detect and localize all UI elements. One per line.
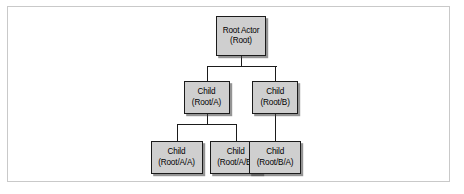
tree-diagram: Root Actor (Root) Child (Root/A) Child (… — [8, 7, 451, 183]
node-child-root-a-title: Child — [198, 87, 216, 97]
node-child-root-a-path: (Root/A) — [192, 98, 221, 108]
connector-to-child-b — [275, 66, 276, 81]
node-child-root-a-a-path: (Root/A/A) — [158, 158, 195, 168]
node-root-actor-title: Root Actor — [223, 26, 260, 36]
connector-level1-bus — [207, 66, 277, 67]
node-child-root-b-title: Child — [266, 87, 284, 97]
node-child-root-a[interactable]: Child (Root/A) — [184, 81, 230, 114]
node-root-actor-path: (Root) — [230, 36, 252, 46]
node-child-root-a-a[interactable]: Child (Root/A/A) — [151, 141, 203, 174]
connector-to-child-ab — [236, 124, 237, 141]
figure-frame: Root Actor (Root) Child (Root/A) Child (… — [7, 6, 450, 182]
node-child-root-a-b-title: Child — [227, 147, 245, 157]
connector-to-child-a — [207, 66, 208, 81]
node-child-root-b-a-path: (Root/B/A) — [257, 158, 294, 168]
node-child-root-a-a-title: Child — [168, 147, 186, 157]
connector-level2-bus — [177, 124, 238, 125]
connector-to-child-ba — [275, 114, 276, 141]
node-root-actor[interactable]: Root Actor (Root) — [216, 16, 266, 56]
connector-to-child-aa — [177, 124, 178, 141]
node-child-root-b-a[interactable]: Child (Root/B/A) — [249, 141, 301, 174]
node-child-root-b[interactable]: Child (Root/B) — [252, 81, 298, 114]
node-child-root-b-path: (Root/B) — [260, 98, 289, 108]
node-child-root-b-a-title: Child — [266, 147, 284, 157]
